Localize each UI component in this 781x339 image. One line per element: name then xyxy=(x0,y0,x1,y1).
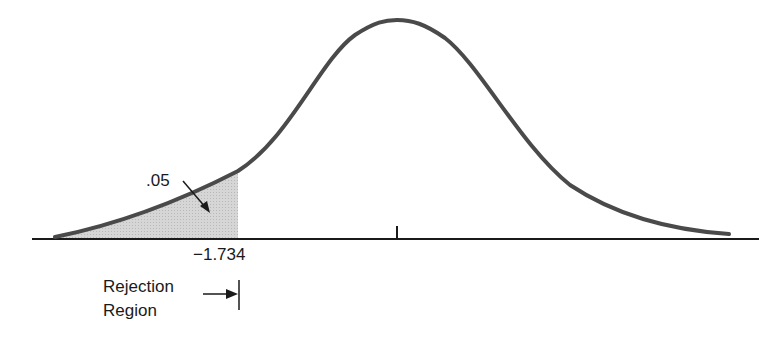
density-curve xyxy=(55,20,729,237)
rejection-region-arrow xyxy=(203,280,239,310)
critical-value-label: −1.734 xyxy=(193,245,245,265)
rejection-region-label-line1: Rejection xyxy=(103,277,174,297)
alpha-label: .05 xyxy=(146,171,170,191)
rejection-region-label-line2: Region xyxy=(103,301,157,321)
